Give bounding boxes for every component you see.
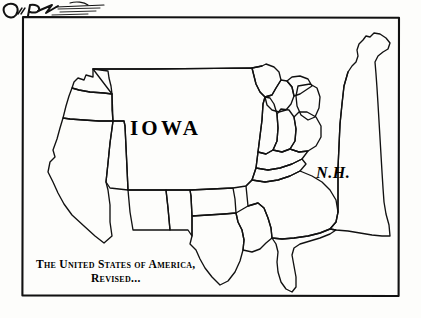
cartoon-caption: The United States of America, Revised... [36, 258, 196, 285]
map-label-iowa: IOWA [130, 116, 201, 141]
caption-line-2: Revised... [36, 272, 196, 286]
caption-line-1: The United States of America, [36, 258, 196, 272]
cartoon-image: IOWA N.H. The United States of America, … [0, 0, 421, 318]
map-label-new-hampshire: N.H. [316, 164, 350, 182]
